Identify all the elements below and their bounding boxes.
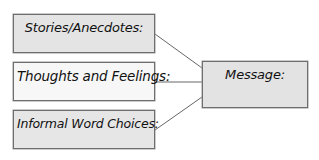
informal-word-choices-label: Informal Word Choices: [14,111,154,131]
informal-word-choices-box: Informal Word Choices: [13,110,155,149]
stories-anecdotes-box: Stories/Anecdotes: [13,14,155,53]
message-box: Message: [202,61,308,108]
message-label: Message: [203,62,307,82]
stories-anecdotes-label: Stories/Anecdotes: [14,15,154,35]
thoughts-feelings-box: Thoughts and Feelings: [13,62,155,101]
connector-stories-to-message [155,34,202,68]
thoughts-feelings-label: Thoughts and Feelings: [14,63,154,84]
connector-informal-to-message [155,97,202,130]
